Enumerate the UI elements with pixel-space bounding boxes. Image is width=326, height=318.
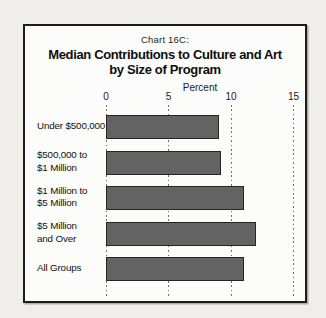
axis-title: Percent bbox=[120, 82, 280, 93]
bar bbox=[106, 186, 244, 210]
page: { "header": { "chart_label": "Chart 16C:… bbox=[0, 0, 326, 318]
chart-frame: Chart 16C: Median Contributions to Cultu… bbox=[23, 24, 307, 303]
axis-tick-label: 5 bbox=[154, 91, 184, 102]
axis-tick-label: 0 bbox=[91, 91, 121, 102]
category-label: $500,000 to$1 Million bbox=[37, 149, 87, 174]
chart-title-line2: by Size of Program bbox=[23, 62, 307, 77]
bar bbox=[106, 151, 221, 175]
category-label: $1 Million to$5 Million bbox=[37, 185, 87, 210]
chart-title-line1: Median Contributions to Culture and Art bbox=[23, 47, 307, 62]
bar bbox=[106, 222, 256, 246]
gridline bbox=[293, 105, 294, 296]
bar bbox=[106, 257, 244, 281]
category-label: $5 Millionand Over bbox=[37, 220, 77, 245]
bar bbox=[106, 115, 219, 139]
category-label: Under $500,000 bbox=[37, 120, 105, 133]
chart-number-label: Chart 16C: bbox=[23, 34, 307, 45]
axis-tick-label: 10 bbox=[216, 91, 246, 102]
axis-tick-label: 15 bbox=[279, 91, 309, 102]
category-label: All Groups bbox=[37, 262, 81, 275]
